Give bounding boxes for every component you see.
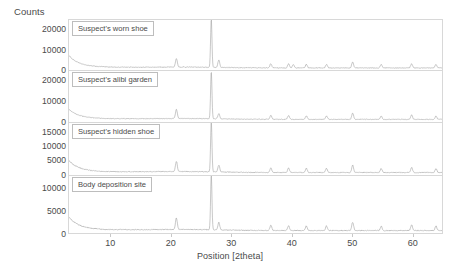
xrd-diffractogram-figure: Counts 010000200000100002000005000100001… [0,0,460,273]
y-tick-label: 0 [4,66,66,74]
x-tick-label: 40 [277,238,307,248]
x-tick-mark [413,234,414,237]
x-tick-mark [292,234,293,237]
x-tick-label: 10 [95,238,125,248]
y-tick-label: 0 [4,230,66,238]
panel-label-4: Body deposition site [72,177,152,192]
x-tick-label: 60 [398,238,428,248]
x-tick-label: 50 [337,238,367,248]
x-tick-mark [352,234,353,237]
y-tick-label: 15000 [4,128,66,136]
y-tick-label: 0 [4,118,66,126]
y-axis-tick-labels: 0100002000001000020000050001000015000050… [0,0,66,273]
x-tick-mark [171,234,172,237]
y-tick-label: 10000 [4,46,66,54]
y-tick-label: 5000 [4,207,66,215]
y-tick-label: 10000 [4,142,66,150]
y-tick-label: 0 [4,171,66,179]
y-tick-label: 20000 [4,76,66,84]
y-tick-label: 10000 [4,184,66,192]
panel-label-1: Suspect's worn shoe [72,21,154,36]
y-tick-label: 20000 [4,25,66,33]
y-tick-label: 10000 [4,97,66,105]
x-tick-label: 30 [216,238,246,248]
x-axis-title: Position [2theta] [0,251,460,261]
y-tick-label: 5000 [4,156,66,164]
x-tick-mark [110,234,111,237]
x-tick-label: 20 [156,238,186,248]
x-tick-mark [231,234,232,237]
panel-label-3: Suspect's hidden shoe [72,124,160,139]
panel-label-2: Suspect's alibi garden [72,72,158,87]
